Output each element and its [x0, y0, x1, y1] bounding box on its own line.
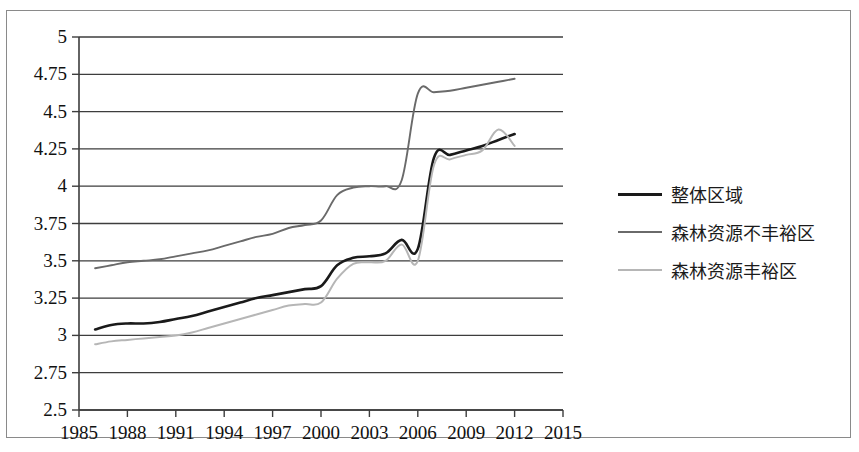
legend-swatch-line-icon [618, 193, 662, 196]
y-axis-tick-label: 3.25 [34, 288, 67, 307]
y-axis-tick-label: 4.75 [34, 64, 67, 83]
legend-label: 整体区域 [671, 181, 743, 207]
x-axis-ticks-group [79, 410, 563, 417]
y-axis-tick-label: 5 [58, 27, 68, 46]
y-axis-tick-label: 3.75 [34, 214, 67, 233]
series-line-0 [95, 134, 514, 329]
legend-item: 整体区域 [618, 175, 853, 213]
gridlines-group [79, 37, 563, 410]
data-series-group [95, 79, 514, 345]
series-line-1 [95, 79, 514, 268]
series-line-2 [95, 129, 514, 344]
figure-container: 54.754.54.2543.753.53.2532.752.5 1985198… [0, 0, 859, 452]
y-axis-tick-label: 4 [58, 176, 68, 195]
y-axis-tick-label: 2.75 [34, 363, 67, 382]
y-axis-ticks-group [72, 37, 79, 410]
chart-legend: 整体区域森林资源不丰裕区森林资源丰裕区 [618, 175, 853, 289]
legend-label: 森林资源丰裕区 [671, 257, 797, 283]
legend-swatch-line-icon [618, 269, 662, 271]
legend-swatch-line-icon [618, 231, 662, 233]
legend-item: 森林资源丰裕区 [618, 251, 853, 289]
y-axis-tick-label: 4.25 [34, 139, 67, 158]
x-axis-tick-label: 2015 [533, 423, 593, 442]
y-axis-tick-label: 3.5 [43, 251, 67, 270]
y-axis-tick-label: 4.5 [43, 102, 67, 121]
y-axis-tick-label: 3 [58, 325, 68, 344]
y-axis-tick-label: 2.5 [43, 400, 67, 419]
legend-item: 森林资源不丰裕区 [618, 213, 853, 251]
legend-label: 森林资源不丰裕区 [671, 219, 815, 245]
